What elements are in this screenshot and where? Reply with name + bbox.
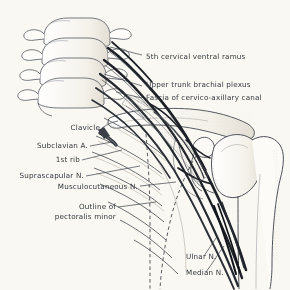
label-fifth-cervical-ventral-ramus: 5th cervical ventral ramus [146, 52, 245, 61]
label-suprascapular-nerve: Suprascapular N. [0, 171, 84, 180]
label-fascia-cervico-axillary-canal: Fascia of cervico-axillary canal [146, 93, 262, 102]
label-median-nerve: Median N. [186, 268, 224, 277]
label-pectoralis-minor: pectoralis minor [0, 212, 116, 221]
label-clavicle: Clavicle [0, 123, 100, 132]
label-musculocutaneous-nerve: Musculocutaneous N. [0, 182, 138, 191]
label-ulnar-nerve: Ulnar N. [186, 252, 217, 261]
label-subclavian-artery: Subclavian A. [0, 141, 88, 150]
label-first-rib: 1st rib [0, 155, 80, 164]
label-outline-of: Outline of [0, 202, 116, 211]
anatomical-figure: 5th cervical ventral ramus Upper trunk b… [0, 0, 290, 290]
label-upper-trunk-brachial-plexus: Upper trunk brachial plexus [146, 80, 251, 89]
